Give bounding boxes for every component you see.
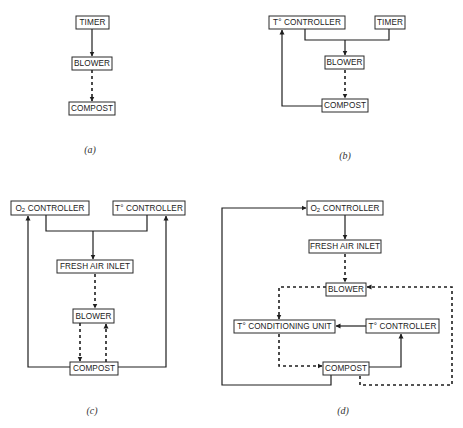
t-controller-label: T° CONTROLLER: [369, 322, 437, 331]
panel-label-d: (d): [337, 405, 349, 417]
compost-box: COMPOST: [322, 99, 368, 112]
timer-label: TIMER: [377, 18, 403, 27]
compost-label: COMPOST: [71, 104, 113, 113]
o2-controller-label: O2 CONTROLLER: [15, 204, 84, 214]
blower-label: BLOWER: [326, 58, 362, 67]
panel-label-b: (b): [339, 150, 351, 162]
blower-to-conditioning-airflow: [279, 287, 326, 319]
compost-box: COMPOST: [70, 362, 118, 375]
compost-to-blower-recirculation: [360, 287, 452, 385]
blower-box: BLOWER: [72, 57, 112, 70]
compost-box: COMPOST: [323, 362, 369, 375]
t-controller-box: T° CONTROLLER: [366, 319, 439, 333]
blower-box: BLOWER: [326, 283, 366, 296]
t-controller-label: T° CONTROLLER: [115, 204, 183, 213]
blower-box: BLOWER: [325, 56, 364, 69]
o2-controller-box: O2 CONTROLLER: [11, 201, 89, 215]
fresh-air-inlet-label: FRESH AIR INLET: [60, 262, 130, 271]
compost-box: COMPOST: [69, 102, 115, 115]
compost-control-diagram: TIMER BLOWER COMPOST (a) T° CONTROLLER T…: [0, 0, 463, 428]
compost-to-t-controller-feedback: [118, 216, 166, 367]
t-conditioning-unit-label: T° CONDITIONING UNIT: [237, 322, 331, 331]
blower-box: BLOWER: [73, 309, 114, 323]
panel-d: O2 CONTROLLER FRESH AIR INLET BLOWER T° …: [222, 201, 452, 417]
t-controller-label: T° CONTROLLER: [273, 18, 341, 27]
o2-controller-box: O2 CONTROLLER: [307, 201, 383, 215]
timer-label: TIMER: [80, 18, 106, 27]
fresh-air-inlet-label: FRESH AIR INLET: [310, 242, 380, 251]
t-conditioning-unit-box: T° CONDITIONING UNIT: [234, 320, 335, 333]
compost-label: COMPOST: [325, 364, 367, 373]
panel-a: TIMER BLOWER COMPOST (a): [69, 16, 115, 156]
o2-controller-label: O2 CONTROLLER: [310, 204, 379, 214]
fresh-air-inlet-box: FRESH AIR INLET: [309, 240, 381, 253]
compost-label: COMPOST: [73, 364, 115, 373]
controllers-join-line: [46, 215, 147, 231]
blower-label: BLOWER: [75, 312, 111, 321]
compost-to-t-controller-feedback: [369, 334, 401, 367]
compost-to-o2-controller-feedback: [222, 208, 331, 385]
t-controller-box: T° CONTROLLER: [269, 16, 345, 29]
panel-b: T° CONTROLLER TIMER BLOWER COMPOST (b): [269, 16, 405, 162]
t-controller-box: T° CONTROLLER: [113, 201, 185, 215]
compost-to-controller-feedback: [282, 30, 322, 106]
panel-label-c: (c): [86, 405, 98, 417]
compost-label: COMPOST: [324, 101, 366, 110]
fresh-air-inlet-box: FRESH AIR INLET: [57, 260, 133, 273]
panel-c: O2 CONTROLLER T° CONTROLLER FRESH AIR IN…: [11, 201, 185, 417]
timer-box: TIMER: [375, 16, 405, 29]
panel-label-a: (a): [84, 144, 96, 156]
compost-to-o2-controller-feedback: [28, 216, 70, 367]
conditioning-to-compost-airflow: [279, 334, 322, 366]
timer-box: TIMER: [76, 16, 109, 29]
controllers-join-line: [305, 29, 389, 40]
blower-label: BLOWER: [74, 59, 110, 68]
blower-label: BLOWER: [328, 285, 364, 294]
